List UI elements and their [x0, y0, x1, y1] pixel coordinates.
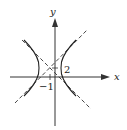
y-axis-label: y [49, 6, 56, 17]
x-tick-label: −1 [39, 81, 54, 92]
y-tick-label: 2 [64, 64, 70, 75]
asymptotes [15, 29, 91, 109]
x-axis-arrow-icon [101, 74, 110, 80]
left-branch [24, 40, 39, 96]
y-axis-arrow-icon [52, 18, 58, 27]
x-axis-label: x [114, 71, 120, 82]
y-axis [52, 18, 58, 126]
x-axis [10, 74, 110, 80]
hyperbola-diagram: y x 2 −1 [0, 0, 127, 130]
